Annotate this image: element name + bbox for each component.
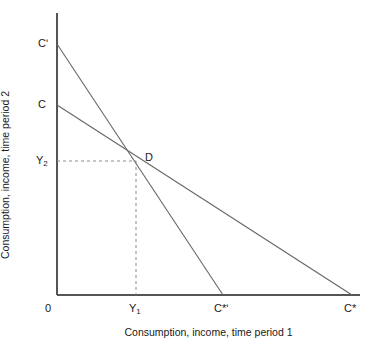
label-cstar: C* — [344, 303, 356, 314]
label-cstar-prime: C*ʹ — [214, 303, 228, 314]
label-y1-subscript: 1 — [136, 307, 140, 316]
label-y1: Y1 — [129, 303, 141, 314]
label-c: C — [38, 99, 46, 110]
budget-line-steep — [57, 44, 223, 295]
label-y2-subscript: 2 — [43, 159, 47, 168]
label-point-d: D — [145, 152, 153, 163]
budget-constraint-diagram — [0, 0, 388, 350]
figure-canvas: Consumption, income, time period 2 Consu… — [0, 0, 388, 350]
label-c-prime: Cʹ — [38, 38, 48, 49]
label-y2: Y2 — [36, 155, 48, 166]
label-origin: 0 — [45, 303, 51, 314]
y-axis-title: Consumption, income, time period 2 — [0, 0, 16, 350]
x-axis-title: Consumption, income, time period 1 — [57, 327, 360, 338]
